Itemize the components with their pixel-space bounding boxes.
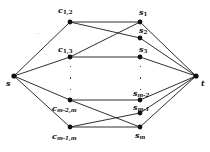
label-source-s: s xyxy=(6,79,11,87)
node-c13 xyxy=(68,55,73,60)
label-c12: c1,2 xyxy=(58,6,73,15)
node-s3 xyxy=(138,55,143,60)
edge-c12-to-s2 xyxy=(70,22,140,38)
label-sm2: sm-2 xyxy=(133,89,149,98)
label-sm1: sm-1 xyxy=(133,103,149,112)
edge-cm1m-to-sm1 xyxy=(70,113,140,127)
left-vertical-ellipsis xyxy=(69,66,72,90)
right-vertical-ellipsis xyxy=(139,66,142,90)
label-c13: c1,3 xyxy=(58,45,73,54)
middle-edge-group xyxy=(70,22,140,127)
node-s2 xyxy=(138,36,143,41)
node-s1 xyxy=(138,20,143,25)
edge-s3-to-t xyxy=(140,57,196,76)
edge-s-to-c13 xyxy=(14,57,70,76)
edge-sm-to-t xyxy=(140,76,196,127)
node-cm2m xyxy=(68,98,73,103)
edge-s1-to-t xyxy=(140,22,196,76)
edge-c13-to-s1 xyxy=(70,22,140,57)
node-cm1m xyxy=(68,125,73,130)
label-cm2m: cm-2,m xyxy=(52,104,77,113)
edge-cm2m-to-sm xyxy=(70,100,140,127)
label-s2: s2 xyxy=(139,26,147,35)
node-source-s xyxy=(11,73,16,78)
node-sm xyxy=(138,125,143,130)
graph-canvas xyxy=(0,0,210,152)
graph-figure: s t c1,2 c1,3 cm-2,m cm-1,m s1 s2 s3 sm-… xyxy=(0,0,210,152)
node-c12 xyxy=(68,20,73,25)
scan-smudge: ¬ xyxy=(34,30,40,38)
label-s3: s3 xyxy=(139,45,147,54)
label-sm: sm xyxy=(135,131,145,140)
edge-s2-to-t xyxy=(140,38,196,76)
label-sink-t: t xyxy=(201,79,205,87)
label-cm1m: cm-1,m xyxy=(52,132,77,141)
edge-s-to-cm1m xyxy=(14,76,70,127)
edge-s-to-cm2m xyxy=(14,76,70,100)
label-s1: s1 xyxy=(139,8,147,17)
node-sink-t xyxy=(193,73,198,78)
